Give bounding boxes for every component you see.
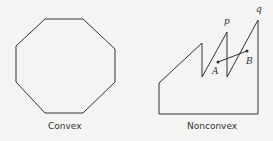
label-b: B [246,56,253,66]
convex-octagon [16,19,115,113]
figure-canvas [0,0,273,141]
nonconvex-polygon [159,20,258,114]
label-p: p [224,16,230,26]
caption-convex: Convex [48,121,82,131]
segment-ab [218,51,247,62]
label-q: q [256,4,262,14]
caption-nonconvex: Nonconvex [187,121,237,131]
label-a: A [212,66,219,76]
point-b [246,50,249,53]
point-a [217,61,220,64]
